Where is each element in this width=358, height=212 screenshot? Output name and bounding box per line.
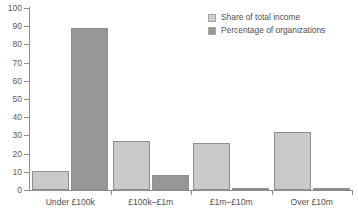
y-axis-tick xyxy=(24,63,29,64)
x-axis-tick-label: £1m–£10m xyxy=(191,197,272,207)
x-axis-tick-label: £100k–£1m xyxy=(111,197,192,207)
y-axis-tick-label: 60 xyxy=(0,77,22,86)
y-axis-tick-label: 100 xyxy=(0,4,22,13)
y-axis-tick xyxy=(24,154,29,155)
bar xyxy=(193,143,230,190)
y-axis-tick-label: 10 xyxy=(0,168,22,177)
x-axis-tick-label: Under £100k xyxy=(30,197,111,207)
x-axis-separator-tick xyxy=(191,191,192,195)
legend-item-percentage-of-organizations: Percentage of organizations xyxy=(208,25,325,36)
bar xyxy=(113,141,150,190)
x-axis-tick-label: Over £10m xyxy=(272,197,353,207)
y-axis-tick xyxy=(24,8,29,9)
x-axis-separator-tick xyxy=(272,191,273,195)
y-axis-tick xyxy=(24,44,29,45)
y-axis-tick-label: 80 xyxy=(0,40,22,49)
bar xyxy=(313,188,350,190)
y-axis-tick xyxy=(24,117,29,118)
y-axis-tick-label: 0 xyxy=(0,186,22,195)
legend-swatch-icon xyxy=(208,14,216,22)
y-axis-tick-label: 70 xyxy=(0,59,22,68)
legend-item-label: Percentage of organizations xyxy=(221,26,325,35)
bar xyxy=(32,171,69,190)
x-axis-separator-tick xyxy=(352,191,353,195)
legend: Share of total income Percentage of orga… xyxy=(208,12,325,38)
y-axis-tick xyxy=(24,26,29,27)
legend-item-share-of-total-income: Share of total income xyxy=(208,12,325,23)
bar xyxy=(232,188,269,190)
y-axis-tick xyxy=(24,81,29,82)
x-axis-separator-tick xyxy=(111,191,112,195)
bar-chart: 0102030405060708090100 Under £100k£100k–… xyxy=(0,0,358,212)
y-axis-tick xyxy=(24,99,29,100)
y-axis-tick xyxy=(24,135,29,136)
bar xyxy=(274,132,311,190)
y-axis-tick-label: 20 xyxy=(0,150,22,159)
bar xyxy=(71,28,108,190)
legend-item-label: Share of total income xyxy=(221,13,300,22)
y-axis-tick xyxy=(24,190,29,191)
y-axis-tick-label: 50 xyxy=(0,95,22,104)
legend-swatch-icon xyxy=(208,27,216,35)
y-axis-tick-label: 40 xyxy=(0,113,22,122)
y-axis-tick xyxy=(24,172,29,173)
bar xyxy=(152,175,189,190)
y-axis-tick-label: 30 xyxy=(0,131,22,140)
y-axis-tick-label: 90 xyxy=(0,22,22,31)
